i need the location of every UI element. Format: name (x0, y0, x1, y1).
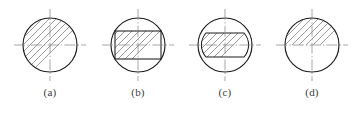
figure-item-c: (c) (180, 0, 270, 113)
figure-caption-d: (d) (267, 86, 357, 98)
figure-panel: (a) (0, 0, 362, 113)
figure-item-d: (d) (267, 0, 357, 113)
figure-a-drawing (5, 0, 95, 90)
figure-b-drawing (93, 0, 183, 90)
figure-item-b: (b) (93, 0, 183, 113)
figure-caption-a: (a) (5, 86, 95, 98)
figure-caption-c: (c) (180, 86, 270, 98)
figure-item-a: (a) (5, 0, 95, 113)
figure-d-drawing (267, 0, 357, 90)
figure-c-drawing (180, 0, 270, 90)
figure-caption-b: (b) (93, 86, 183, 98)
